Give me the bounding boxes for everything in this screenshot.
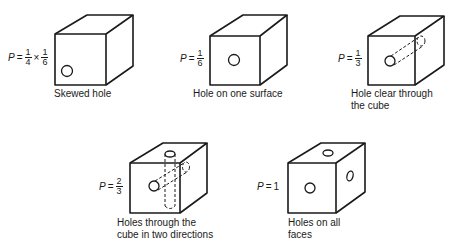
caption-hole-one-surface: Hole on one surface <box>193 88 283 100</box>
diagram-canvas <box>0 0 455 248</box>
caption-skewed-hole: Skewed hole <box>54 88 111 100</box>
caption-holes-two-directions: Holes through the cube in two directions <box>117 217 213 241</box>
hole-top <box>323 150 333 156</box>
equals-sign: = <box>189 53 195 64</box>
hole-top <box>165 151 175 157</box>
hole-side <box>346 170 354 181</box>
fraction: 1 6 <box>41 48 48 67</box>
hole-front <box>62 66 73 77</box>
fraction: 1 6 <box>197 49 204 68</box>
cube-hole-clear-through <box>368 16 444 85</box>
probability-label-hole-clear-through: P = 1 3 <box>338 49 362 68</box>
hole-front <box>229 55 240 66</box>
times-sign: × <box>34 52 40 63</box>
hole-front <box>149 181 159 191</box>
probability-symbol: P <box>257 181 264 192</box>
probability-label-skewed-hole: P = 1 4 × 1 6 <box>8 48 48 67</box>
probability-symbol: P <box>99 181 106 192</box>
probability-symbol: P <box>180 53 187 64</box>
hole-front <box>305 183 315 193</box>
cube-skewed-hole <box>55 15 133 85</box>
probability-label-holes-two-directions: P = 2 3 <box>99 177 123 196</box>
fraction: 1 4 <box>25 48 32 67</box>
caption-holes-all-faces: Holes on all faces <box>288 217 340 241</box>
caption-hole-clear-through: Hole clear through the cube <box>351 88 433 112</box>
fraction: 1 3 <box>355 49 362 68</box>
probability-label-hole-one-surface: P = 1 6 <box>180 49 204 68</box>
cube-hole-one-surface <box>210 15 287 85</box>
fraction: 2 3 <box>116 177 123 196</box>
probability-symbol: P <box>8 52 15 63</box>
equals-sign: = <box>108 181 114 192</box>
probability-symbol: P <box>338 53 345 64</box>
probability-value: 1 <box>274 181 280 192</box>
equals-sign: = <box>266 181 272 192</box>
cube-holes-two-directions <box>130 143 207 213</box>
cube-holes-all-faces <box>288 143 365 213</box>
equals-sign: = <box>17 52 23 63</box>
hole-front <box>385 56 395 66</box>
probability-label-holes-all-faces: P = 1 <box>257 181 279 192</box>
equals-sign: = <box>347 53 353 64</box>
